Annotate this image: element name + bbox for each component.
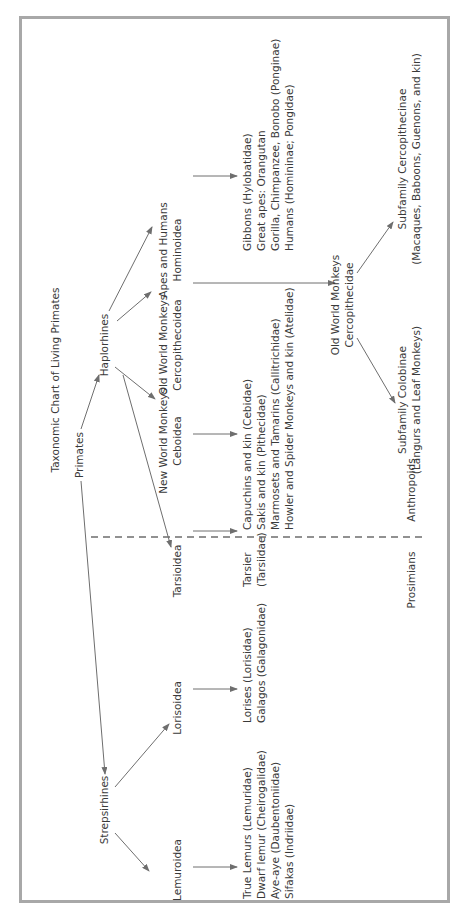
list-item: (Tarsiidae)	[255, 533, 267, 587]
list-tarsioidea-families: Tarsier (Tarsiidae)	[241, 533, 267, 588]
label-prosimians: Prosimians	[405, 552, 417, 609]
arrow-primates-strepsirhines	[81, 481, 105, 774]
arrow-haplorhines-hominoidea	[109, 227, 152, 311]
arrow-cercopithecidae-cercopithecinae	[357, 222, 393, 273]
svg-text:Cercopithecoidea: Cercopithecoidea	[171, 299, 183, 391]
diagram-frame: Taxonomic Chart of Living Primates Prima…	[19, 16, 450, 903]
arrow-strepsirhines-lorisoidea	[115, 724, 169, 787]
rotated-canvas: Taxonomic Chart of Living Primates Prima…	[19, 16, 450, 903]
list-item: Galagos (Galagonidae)	[255, 603, 267, 723]
node-cercopithecoidea: Old World Monkeys Cercopithecoidea	[157, 295, 183, 396]
node-cercopithecinae: Subfamily Cercopithecinae (Macaques, Bab…	[396, 53, 422, 265]
list-lemuroidea-families: True Lemurs (Lemuridae) Dwarf lemur (Che…	[241, 750, 295, 900]
arrow-haplorhines-cercopithecoidea	[117, 292, 151, 321]
list-item: Aye-aye (Daubentoniidae)	[269, 762, 281, 899]
list-item: Humans (Homininae; Pongidae)	[283, 84, 295, 251]
svg-text:Subfamily Cercopithecinae: Subfamily Cercopithecinae	[396, 89, 408, 230]
svg-text:Apes and Humans: Apes and Humans	[157, 202, 169, 298]
arrow-cercopithecidae-colobinae	[357, 338, 395, 403]
svg-text:Old World Monkeys: Old World Monkeys	[157, 295, 169, 396]
taxonomy-diagram: Taxonomic Chart of Living Primates Prima…	[19, 16, 450, 903]
list-item: Howler and Spider Monkeys and kin (Ateli…	[283, 287, 295, 530]
list-hominoidea-families: Gibbons (Hylobatidae) Great apes: Orangu…	[241, 39, 295, 251]
list-item: Sifakas (Indriidae)	[283, 804, 295, 899]
node-ceboidea: New World Monkeys Ceboidea	[157, 388, 183, 494]
svg-text:Ceboidea: Ceboidea	[171, 416, 183, 465]
svg-text:(Macaques, Baboons, Guenons, a: (Macaques, Baboons, Guenons, and kin)	[410, 53, 422, 265]
list-item: Capuchins and kin (Cebidae)	[241, 379, 253, 530]
arrow-primates-haplorhines	[81, 375, 99, 429]
node-colobinae: Subfamily Colobinae (Langurs and Leaf Mo…	[396, 326, 422, 474]
node-cercopithecidae: Old World Monkeys Cercopithecidae	[329, 255, 355, 356]
svg-text:New World Monkeys: New World Monkeys	[157, 388, 169, 494]
node-hominoidea: Apes and Humans Hominoidea	[157, 202, 183, 298]
node-haplorhines: Haplorhines	[98, 314, 110, 377]
list-item: Lorises (Lorisidae)	[241, 627, 253, 723]
chart-title: Taxonomic Chart of Living Primates	[49, 287, 61, 473]
label-anthropoids: Anthropoids	[405, 458, 417, 521]
list-item: Sakis and kin (Pithecidae)	[255, 394, 267, 530]
svg-text:Hominoidea: Hominoidea	[171, 218, 183, 281]
list-ceboidea-families: Capuchins and kin (Cebidae) Sakis and ki…	[241, 287, 295, 530]
node-tarsioidea: Tarsioidea	[171, 545, 183, 599]
svg-text:(Langurs and Leaf Monkeys): (Langurs and Leaf Monkeys)	[410, 326, 422, 474]
node-primates: Primates	[73, 432, 85, 478]
list-item: Gibbons (Hylobatidae)	[241, 133, 253, 251]
svg-text:Cercopithecidae: Cercopithecidae	[343, 262, 355, 347]
list-item: Marmosets and Tamarins (Callitrichidae)	[269, 318, 281, 530]
node-strepsirhines: Strepsirhines	[98, 776, 110, 845]
svg-text:Old World Monkeys: Old World Monkeys	[329, 255, 341, 356]
svg-text:Subfamily Colobinae: Subfamily Colobinae	[396, 346, 408, 454]
list-item: True Lemurs (Lemuridae)	[241, 767, 253, 900]
list-item: Great apes: Orangutan	[255, 130, 267, 251]
list-item: Dwarf lemur (Cheirogalidae)	[255, 750, 267, 899]
node-lorisoidea: Lorisoidea	[171, 681, 183, 735]
arrow-haplorhines-ceboidea	[115, 367, 155, 399]
node-lemuroidea: Lemuroidea	[171, 839, 183, 901]
list-item: Gorilla, Chimpanzee, Bonobo (Ponginae)	[269, 39, 281, 251]
list-lorisoidea-families: Lorises (Lorisidae) Galagos (Galagonidae…	[241, 603, 267, 723]
arrow-strepsirhines-lemuroidea	[115, 833, 149, 871]
list-item: Tarsier	[241, 552, 253, 588]
